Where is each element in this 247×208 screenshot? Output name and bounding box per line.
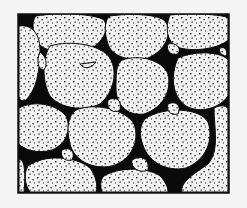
grain-packing-figure — [0, 0, 247, 208]
grain — [68, 107, 136, 167]
grain-diagram-svg — [0, 0, 247, 208]
grain — [19, 104, 68, 152]
grain — [173, 53, 228, 110]
grain — [108, 98, 121, 111]
grain — [61, 149, 73, 161]
grain — [167, 14, 228, 50]
grain — [167, 103, 179, 115]
grain — [44, 43, 114, 108]
grain — [19, 160, 25, 192]
